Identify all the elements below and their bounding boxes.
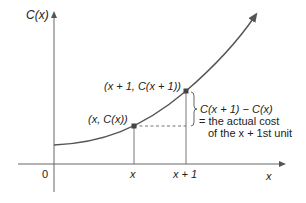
- brace-icon: [191, 92, 197, 126]
- annotation-actual-cost: = the actual cost: [199, 115, 279, 127]
- annotation-unit: of the x + 1st unit: [208, 127, 292, 139]
- point-x1: [184, 89, 189, 94]
- x1-tick-label: x + 1: [173, 168, 197, 180]
- point-x: [132, 124, 137, 129]
- annotation-difference: C(x + 1) − C(x): [200, 103, 273, 115]
- cost-function-diagram: C(x) 0 x x + 1 x (x, C(x)) (x + 1, C(x +…: [0, 0, 306, 203]
- y-axis-label: C(x): [26, 9, 49, 21]
- x-tick-label: x: [130, 168, 136, 180]
- point2-label: (x + 1, C(x + 1)): [104, 80, 181, 92]
- x-axis-label: x: [266, 170, 272, 182]
- point1-label: (x, C(x)): [88, 113, 128, 125]
- origin-label: 0: [42, 168, 48, 180]
